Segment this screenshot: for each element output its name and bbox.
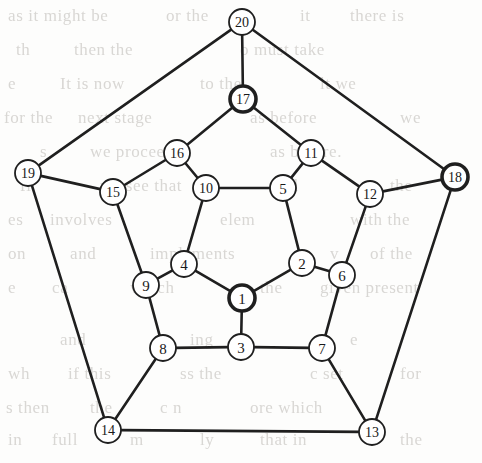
graph-node-11[interactable]: 11: [298, 140, 324, 166]
graph-edge: [157, 270, 174, 279]
graph-node-17[interactable]: 17: [230, 86, 256, 112]
graph-edge: [194, 270, 231, 292]
graph-node-12[interactable]: 12: [357, 181, 383, 207]
node-label: 14: [101, 423, 115, 438]
graph-edge: [117, 203, 142, 273]
node-label: 17: [236, 92, 250, 107]
graph-edge: [149, 297, 160, 337]
graph-edge: [313, 266, 330, 271]
node-label: 20: [235, 15, 249, 30]
graph-edge: [376, 188, 452, 420]
node-label: 16: [170, 146, 184, 161]
node-label: 11: [304, 146, 317, 161]
graph-node-18[interactable]: 18: [442, 164, 468, 190]
graph-edge: [328, 358, 366, 421]
graph-edge: [115, 358, 157, 420]
graph-node-15[interactable]: 15: [100, 179, 126, 205]
graph-edge: [286, 200, 299, 252]
graph-edge: [241, 310, 242, 335]
node-label: 13: [365, 425, 379, 440]
graph-node-16[interactable]: 16: [164, 140, 190, 166]
graph-node-5[interactable]: 5: [270, 175, 296, 201]
node-label: 9: [142, 278, 150, 294]
node-label: 5: [279, 181, 287, 197]
graph-node-19[interactable]: 19: [15, 160, 41, 186]
graph-edge: [185, 162, 199, 179]
node-label: 12: [363, 187, 377, 202]
graph-edge: [123, 159, 167, 186]
node-label: 4: [180, 257, 188, 273]
graph-edge: [32, 184, 105, 418]
node-label: 8: [159, 341, 167, 357]
graph-node-10[interactable]: 10: [193, 175, 219, 201]
graph-edge: [252, 269, 291, 292]
node-label: 18: [448, 170, 462, 185]
graph-node-9[interactable]: 9: [133, 272, 159, 298]
graph-node-4[interactable]: 4: [171, 251, 197, 277]
graph-edge: [252, 29, 446, 170]
graph-node-20[interactable]: 20: [229, 9, 255, 35]
graph-edge: [242, 34, 243, 87]
graph-edge: [175, 347, 229, 348]
graph-edge: [186, 107, 233, 146]
node-label: 1: [238, 291, 246, 307]
graph-edge: [253, 347, 310, 348]
node-label: 10: [199, 181, 213, 196]
graph-edge: [38, 29, 232, 166]
node-label: 3: [237, 340, 245, 356]
node-label: 15: [106, 185, 120, 200]
graph-edge: [120, 430, 360, 432]
graph-edge: [382, 179, 443, 191]
graph-edge: [290, 162, 303, 178]
graph-node-13[interactable]: 13: [359, 419, 385, 445]
graph-edge: [346, 205, 366, 263]
node-label: 2: [298, 256, 306, 272]
graph-node-14[interactable]: 14: [95, 417, 121, 443]
graph-node-3[interactable]: 3: [228, 334, 254, 360]
graph-node-2[interactable]: 2: [289, 250, 315, 276]
dodecahedral-graph-figure: as it might beor theitthere isththen the…: [0, 0, 482, 463]
graph-node-1[interactable]: 1: [229, 285, 255, 311]
graph-node-7[interactable]: 7: [309, 335, 335, 361]
graph-node-6[interactable]: 6: [329, 262, 355, 288]
graph-edge: [40, 176, 102, 190]
node-label: 6: [338, 268, 346, 284]
graph-edge: [252, 106, 301, 145]
graph-edge: [325, 287, 339, 337]
graph-canvas: 1234567891011121314151617181920: [0, 0, 482, 463]
graph-edge: [321, 160, 360, 187]
graph-edge: [187, 200, 202, 253]
node-label: 19: [21, 166, 35, 181]
node-label: 7: [318, 341, 326, 357]
graph-node-8[interactable]: 8: [150, 335, 176, 361]
